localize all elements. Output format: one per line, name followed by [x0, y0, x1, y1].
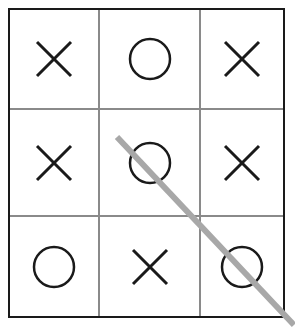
cell-r3-c1[interactable]	[10, 217, 100, 316]
o-mark-icon	[128, 37, 172, 81]
o-mark-icon	[32, 245, 76, 289]
x-mark-icon	[128, 245, 172, 289]
cell-r3-c2[interactable]	[100, 217, 201, 316]
cell-r2-c1[interactable]	[10, 110, 100, 217]
o-mark-icon	[128, 141, 172, 185]
cell-r3-c3[interactable]	[201, 217, 283, 316]
cell-r2-c3[interactable]	[201, 110, 283, 217]
x-mark-icon	[32, 141, 76, 185]
tic-tac-toe-board	[8, 8, 285, 318]
cell-r1-c1[interactable]	[10, 10, 100, 110]
x-mark-icon	[32, 37, 76, 81]
o-mark-icon	[220, 245, 264, 289]
cell-r1-c3[interactable]	[201, 10, 283, 110]
x-mark-icon	[220, 141, 264, 185]
cell-r1-c2[interactable]	[100, 10, 201, 110]
cell-r2-c2[interactable]	[100, 110, 201, 217]
x-mark-icon	[220, 37, 264, 81]
